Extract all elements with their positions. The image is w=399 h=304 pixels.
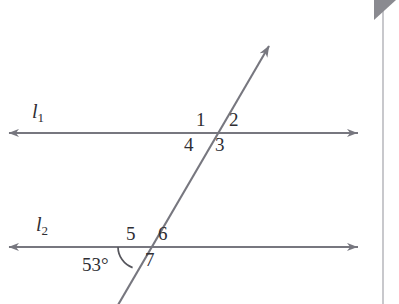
angle-arc-53 bbox=[118, 247, 133, 268]
line-label-l1-letter: l bbox=[32, 100, 38, 122]
angle-label-2: 2 bbox=[229, 110, 239, 129]
line-label-l2-subscript: 2 bbox=[42, 223, 49, 238]
figure-canvas bbox=[0, 0, 399, 304]
transversal-line bbox=[118, 46, 269, 304]
angle-measure-53: 53° bbox=[82, 255, 109, 274]
line-label-l2-letter: l bbox=[36, 213, 42, 235]
geometry-figure: l1 l2 1 2 3 4 5 6 7 53° bbox=[0, 0, 399, 304]
line-label-l1: l1 bbox=[32, 101, 44, 121]
scan-corner-triangle bbox=[374, 0, 396, 20]
line-label-l1-subscript: 1 bbox=[38, 110, 45, 125]
angle-label-5: 5 bbox=[126, 224, 136, 243]
angle-label-4: 4 bbox=[184, 135, 194, 154]
angle-label-1: 1 bbox=[196, 110, 206, 129]
angle-label-6: 6 bbox=[158, 224, 168, 243]
angle-label-3: 3 bbox=[215, 135, 225, 154]
line-label-l2: l2 bbox=[36, 214, 48, 234]
scan-vertical-rule bbox=[382, 8, 384, 304]
angle-label-7: 7 bbox=[145, 250, 155, 269]
